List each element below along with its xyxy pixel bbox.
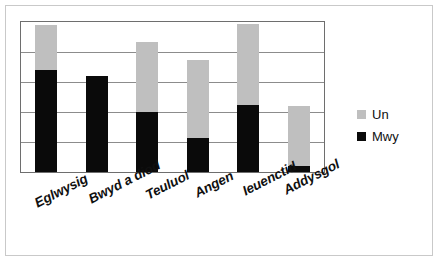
plot-area	[20, 21, 325, 173]
bar-segment-mwy[interactable]	[237, 105, 259, 173]
legend-label-mwy: Mwy	[372, 129, 399, 144]
chart-figure: EglwysigBwyd a diodTeuluolAngenIeuenctid…	[0, 0, 438, 261]
legend-item-un[interactable]: Un	[357, 103, 427, 125]
bar-group[interactable]	[136, 42, 158, 173]
bar-segment-un[interactable]	[237, 24, 259, 105]
bars-layer	[21, 22, 324, 172]
bar-segment-un[interactable]	[187, 60, 209, 138]
bar-group[interactable]	[86, 76, 108, 172]
chart-legend: Un Mwy	[357, 103, 427, 147]
x-axis-tick-label: Eglwysig	[32, 171, 90, 211]
legend-item-mwy[interactable]: Mwy	[357, 125, 427, 147]
bar-segment-mwy[interactable]	[187, 138, 209, 173]
bar-segment-mwy[interactable]	[136, 112, 158, 172]
bar-segment-mwy[interactable]	[35, 70, 57, 172]
bar-segment-un[interactable]	[288, 106, 310, 166]
bar-group[interactable]	[35, 25, 57, 172]
bar-segment-mwy[interactable]	[86, 76, 108, 172]
bar-segment-mwy[interactable]	[288, 166, 310, 172]
legend-swatch-un-icon	[357, 110, 366, 119]
legend-label-un: Un	[372, 107, 389, 122]
bar-segment-un[interactable]	[136, 42, 158, 113]
bar-group[interactable]	[187, 60, 209, 173]
bar-group[interactable]	[288, 106, 310, 172]
bar-segment-un[interactable]	[35, 25, 57, 70]
bar-group[interactable]	[237, 24, 259, 173]
legend-swatch-mwy-icon	[357, 132, 366, 141]
